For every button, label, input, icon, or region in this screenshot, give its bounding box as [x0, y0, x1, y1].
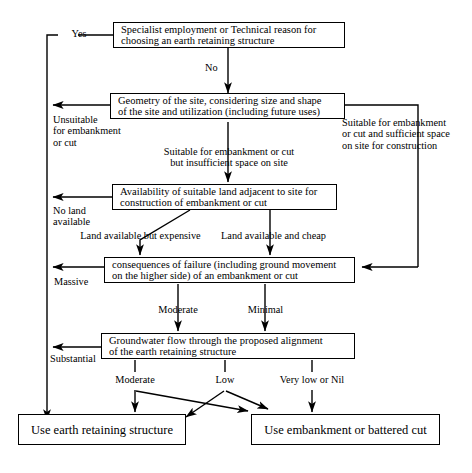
edge-label-land-available-and-cheap: Land available and cheap [212, 230, 335, 241]
node-groundwater-flow-label: Groundwater flow through the proposed al… [109, 335, 323, 358]
edge-label-massive: Massive [54, 276, 114, 287]
node-consequences-of-failure-label: consequences of failure (including groun… [112, 259, 336, 282]
node-use-embankment-or-battered-cut-label: Use embankment or battered cut [264, 423, 426, 437]
node-specialist-employment-label: Specialist employment or Technical reaso… [121, 24, 316, 47]
node-use-earth-retaining-structure[interactable]: Use earth retaining structure [18, 414, 186, 445]
edge-label-suitable-and-sufficient-space: Suitable for embankment or cut and suffi… [342, 117, 472, 151]
edge-moderate-to-embankment [136, 391, 248, 411]
edge-label-substantial: Substantial [50, 353, 116, 364]
edge-label-low: Low [203, 374, 247, 385]
edge-label-no-land-available: No land available [53, 205, 115, 228]
edge-label-no: No [205, 62, 227, 73]
flowchart-canvas: Specialist employment or Technical reaso… [0, 0, 472, 473]
edge-low-to-retaining [186, 391, 224, 417]
node-availability-of-land[interactable]: Availability of suitable land adjacent t… [112, 184, 337, 210]
node-use-earth-retaining-structure-label: Use earth retaining structure [31, 423, 173, 437]
edge-label-yes: Yes [63, 28, 95, 39]
node-groundwater-flow[interactable]: Groundwater flow through the proposed al… [101, 333, 355, 359]
edge-label-minimal: Minimal [238, 304, 293, 315]
node-availability-of-land-label: Availability of suitable land adjacent t… [120, 186, 317, 209]
edge-label-moderate-consequence: Moderate [148, 304, 208, 315]
edge-label-suitable-but-insufficient-space: Suitable for embankment or cut but insuf… [146, 146, 312, 169]
node-use-embankment-or-battered-cut[interactable]: Use embankment or battered cut [251, 414, 440, 445]
edge-label-moderate-flow: Moderate [105, 374, 165, 385]
node-specialist-employment[interactable]: Specialist employment or Technical reaso… [113, 22, 345, 48]
edge-label-unsuitable-for-embankment-or-cut: Unsuitable for embankment or cut [53, 114, 148, 148]
edge-label-very-low-or-nil: Very low or Nil [270, 374, 354, 385]
node-geometry-of-site-label: Geometry of the site, considering size a… [118, 95, 322, 118]
edge-label-land-available-but-expensive: Land available but expensive [72, 230, 209, 241]
node-consequences-of-failure[interactable]: consequences of failure (including groun… [104, 257, 355, 283]
edge-low-to-embankment [226, 391, 268, 409]
